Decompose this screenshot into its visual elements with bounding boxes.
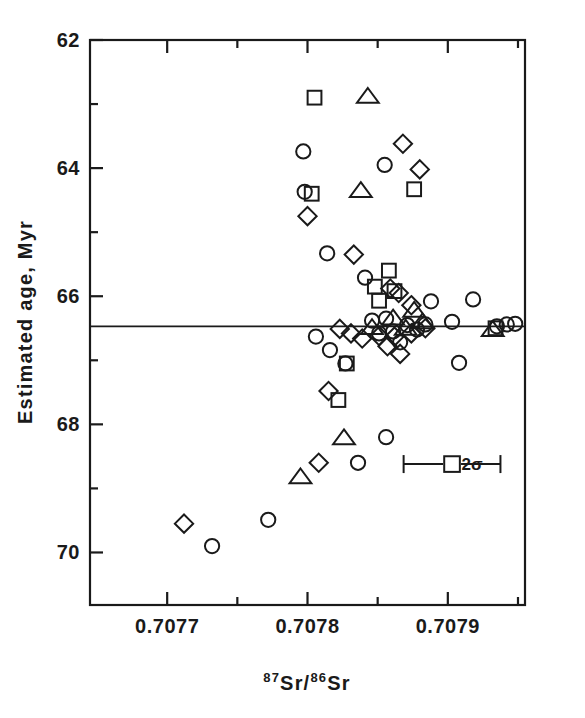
data-point-circle	[261, 513, 275, 527]
data-point-triangle	[333, 429, 355, 444]
data-point-square	[308, 91, 322, 105]
y-tick-label: 66	[57, 285, 80, 307]
data-point-triangle	[350, 182, 372, 197]
error-bar-annotation	[404, 455, 501, 473]
y-tick-label: 68	[57, 413, 80, 435]
data-point-square	[372, 294, 386, 308]
data-point-circle	[205, 539, 219, 553]
data-point-circle	[358, 271, 372, 285]
data-point-diamond	[345, 245, 363, 263]
data-point-circle	[452, 356, 466, 370]
x-axis-title-sr: Sr	[327, 672, 351, 694]
y-tick-label: 70	[57, 541, 80, 563]
data-point-circle	[320, 246, 334, 260]
series-circle	[205, 144, 522, 553]
data-point-circle	[424, 294, 438, 308]
data-point-circle	[466, 292, 480, 306]
data-point-diamond	[411, 160, 429, 178]
data-point-triangle	[290, 469, 312, 484]
data-point-circle	[508, 317, 522, 331]
data-point-diamond	[391, 345, 409, 363]
data-point-circle	[323, 343, 337, 357]
data-point-circle	[296, 144, 310, 158]
x-tick-label: 0.7077	[135, 615, 199, 637]
x-tick-label: 0.7079	[416, 615, 480, 637]
data-point-circle	[351, 456, 365, 470]
data-point-diamond	[394, 135, 412, 153]
x-tick-label: 0.7078	[275, 615, 339, 637]
data-point-triangle	[357, 88, 379, 103]
data-point-diamond	[319, 382, 337, 400]
data-point-square	[407, 182, 421, 196]
y-tick-label: 62	[57, 29, 80, 51]
scatter-plot-figure: 0.70770.70780.70796264666870 Estimated a…	[0, 0, 585, 718]
x-axis-title: 87Sr/86Sr	[263, 670, 351, 694]
data-point-diamond	[298, 207, 316, 225]
data-point-diamond	[175, 514, 193, 532]
data-point-circle	[378, 158, 392, 172]
data-point-diamond	[310, 454, 328, 472]
data-markers	[175, 88, 522, 553]
data-point-circle	[309, 329, 323, 343]
y-tick-label: 64	[57, 157, 81, 179]
y-axis-title: Estimated age, Myr	[14, 220, 36, 424]
error-bar-label: 2σ	[461, 455, 482, 474]
data-point-square	[382, 264, 396, 278]
x-axis-title-sr-slash: Sr/	[280, 672, 310, 694]
x-axis-title-sup-87: 87	[263, 670, 280, 685]
axis-ticks	[90, 40, 518, 605]
error-bar-marker-backdrop	[443, 455, 461, 473]
plot-canvas: 0.70770.70780.70796264666870 Estimated a…	[0, 0, 585, 718]
data-point-circle	[379, 430, 393, 444]
x-axis-title-sup-86: 86	[310, 670, 327, 685]
